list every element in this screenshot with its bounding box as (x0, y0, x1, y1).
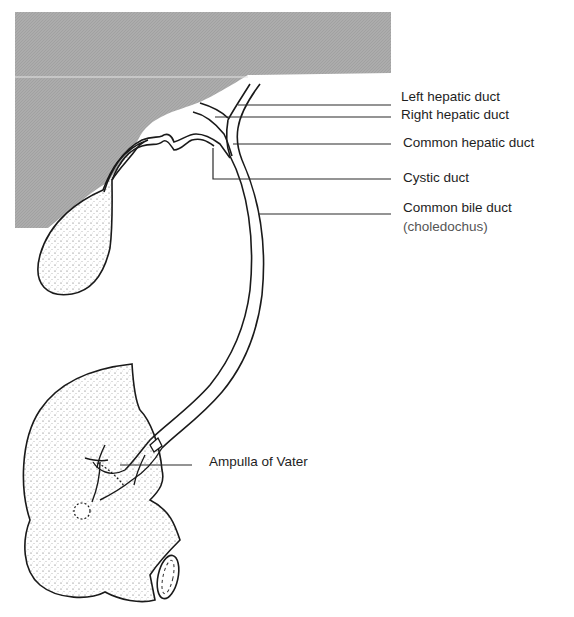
label-right-hepatic-duct: Right hepatic duct (401, 107, 509, 123)
label-ampulla-of-vater: Ampulla of Vater (209, 454, 308, 470)
liver-region (15, 12, 391, 228)
biliary-anatomy-diagram: Left hepatic duct Right hepatic duct Com… (0, 0, 574, 617)
label-common-hepatic-duct: Common hepatic duct (403, 135, 534, 151)
duodenum (23, 364, 180, 602)
label-cystic-duct: Cystic duct (403, 170, 469, 186)
left-hepatic-duct-line (228, 84, 250, 120)
label-common-bile-duct: Common bile duct (403, 200, 512, 216)
label-choledochus: (choledochus) (403, 219, 488, 235)
label-left-hepatic-duct: Left hepatic duct (401, 89, 500, 105)
